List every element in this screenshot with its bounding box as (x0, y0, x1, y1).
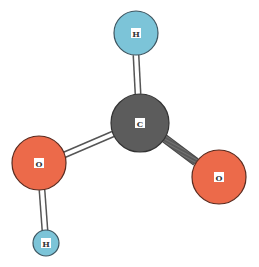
atom-o-right: O (192, 150, 246, 204)
bond-c-o-right (164, 138, 196, 162)
atom-c: C (111, 94, 169, 152)
atom-label: O (36, 159, 43, 169)
bond-h-top-c (136, 55, 138, 94)
bond-o-left-h-bottom (42, 190, 45, 231)
bond-c-o-left (64, 134, 113, 155)
atom-label: C (137, 119, 143, 129)
atom-label: H (132, 29, 140, 39)
atom-label: O (216, 173, 223, 183)
atom-label: H (42, 239, 50, 249)
atom-h-top: H (114, 11, 158, 55)
molecule-diagram: H C O O H (0, 0, 259, 267)
atom-o-left: O (12, 136, 66, 190)
atom-h-bottom: H (33, 230, 59, 256)
